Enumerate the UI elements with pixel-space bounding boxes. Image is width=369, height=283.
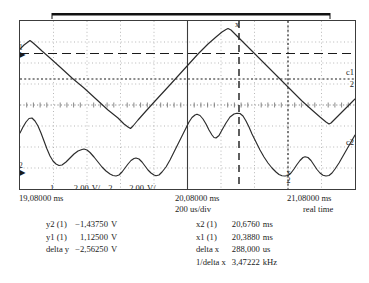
cursor-x1-top-marker[interactable]: x bbox=[235, 20, 239, 29]
measurement-value: −2,56250 bbox=[75, 243, 111, 256]
channel-2-number: 2 bbox=[102, 183, 116, 190]
measurement-row: y1 (1) 1,12500 V bbox=[46, 231, 117, 244]
measurement-name: delta x bbox=[196, 243, 232, 256]
measurement-name: x2 (1) bbox=[196, 218, 232, 231]
trace-label-c2: c2 bbox=[346, 138, 354, 147]
acquisition-mode-label: real time bbox=[303, 204, 333, 214]
measurement-unit: V bbox=[111, 231, 117, 244]
measurement-value: 1,12500 bbox=[75, 231, 111, 244]
measurement-unit: ms bbox=[263, 218, 277, 231]
measurement-unit: ms bbox=[263, 231, 277, 244]
measurement-value: 20,3880 bbox=[232, 231, 263, 244]
measurement-unit: V bbox=[111, 218, 117, 231]
measurement-name: 1/delta x bbox=[196, 256, 232, 269]
measurement-column-voltage: y2 (1) −1,43750 V y1 (1) 1,12500 V delta… bbox=[46, 218, 117, 256]
measurement-unit: kHz bbox=[263, 256, 277, 269]
time-axis-left-label: 19,08000 ms bbox=[19, 193, 63, 203]
cursor-x2-bottom-marker[interactable]: x 2 bbox=[283, 169, 294, 185]
channel-2-ground-marker-icon: ▶ bbox=[19, 168, 25, 177]
channel-1-scale: 2,00 bbox=[58, 183, 91, 190]
time-axis-right-label: 21,08000 ms bbox=[287, 193, 331, 203]
measurement-name: x1 (1) bbox=[196, 231, 232, 244]
measurement-value: −1,43750 bbox=[75, 218, 111, 231]
measurement-row: x2 (1) 20,6760 ms bbox=[196, 218, 277, 231]
measurement-name: delta y bbox=[46, 243, 75, 256]
measurement-unit: V bbox=[111, 243, 117, 256]
measurement-value: 288,000 bbox=[232, 243, 263, 256]
time-axis-center-label: 20,08000 ms bbox=[175, 193, 219, 203]
trace-label-c1: c1 bbox=[346, 68, 354, 77]
measurement-name: y1 (1) bbox=[46, 231, 75, 244]
acquisition-memory-bar bbox=[19, 13, 356, 20]
channel-2-scale-unit: V/ bbox=[147, 183, 158, 190]
measurement-row: 1/delta x 3,47222 kHz bbox=[196, 256, 277, 269]
channel-1-number: 1 bbox=[50, 183, 58, 190]
cursor-x2-marker-number: 2 bbox=[283, 177, 294, 185]
measurement-name: y2 (1) bbox=[46, 218, 75, 231]
scope-display[interactable]: 1 ▶ 2 ▶ c1 2 c2 x x 2 1 2,00 V/ 2 2,00 V… bbox=[19, 20, 356, 190]
measurement-column-time: x2 (1) 20,6760 ms x1 (1) 20,3880 ms delt… bbox=[196, 218, 277, 268]
measurement-unit: us bbox=[263, 243, 277, 256]
measurement-row: x1 (1) 20,3880 ms bbox=[196, 231, 277, 244]
timebase-label: 200 us/div bbox=[175, 204, 211, 214]
measurement-value: 20,6760 bbox=[232, 218, 263, 231]
measurement-row: delta x 288,000 us bbox=[196, 243, 277, 256]
channel-settings-readout[interactable]: 1 2,00 V/ 2 2,00 V/ -4,00000 V 6,00000 V bbox=[50, 183, 158, 190]
oscilloscope-screenshot: 1 ▶ 2 ▶ c1 2 c2 x x 2 1 2,00 V/ 2 2,00 V… bbox=[0, 0, 369, 283]
waveform-canvas bbox=[20, 21, 355, 189]
channel-scale-row: 1 2,00 V/ 2 2,00 V/ bbox=[50, 183, 158, 190]
measurement-row: y2 (1) −1,43750 V bbox=[46, 218, 117, 231]
measurement-row: delta y −2,56250 V bbox=[46, 243, 117, 256]
channel-1-ground-marker-icon: ▶ bbox=[19, 50, 25, 59]
channel-2-scale: 2,00 bbox=[116, 183, 147, 190]
measurement-value: 3,47222 bbox=[232, 256, 263, 269]
channel-1-scale-unit: V/ bbox=[92, 183, 103, 190]
right-edge-marker-2: 2 bbox=[350, 80, 354, 89]
